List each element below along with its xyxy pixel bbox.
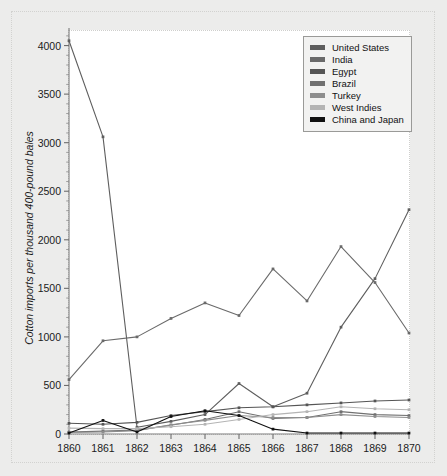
series-line — [69, 247, 409, 380]
data-point-marker — [170, 415, 173, 418]
data-point-marker — [68, 378, 71, 381]
data-point-marker — [204, 423, 207, 426]
data-point-marker — [340, 410, 343, 413]
data-point-marker — [238, 382, 241, 385]
legend-swatch-icon — [310, 117, 325, 122]
data-point-marker — [374, 432, 377, 435]
data-point-marker — [238, 418, 241, 421]
legend-label: United States — [332, 42, 389, 53]
legend-item-china-and-japan[interactable]: China and Japan — [310, 114, 404, 126]
legend-label: Brazil — [332, 78, 356, 89]
y-tick-label: 1500 — [15, 282, 61, 294]
legend-swatch-icon — [310, 93, 325, 98]
data-point-marker — [204, 409, 207, 412]
y-tick-label: 0 — [15, 428, 61, 440]
data-point-marker — [68, 422, 71, 425]
legend-label: Egypt — [332, 66, 356, 77]
data-point-marker — [136, 431, 139, 434]
data-point-marker — [272, 428, 275, 431]
data-point-marker — [272, 413, 275, 416]
y-tick-label: 2500 — [15, 185, 61, 197]
data-point-marker — [340, 326, 343, 329]
data-point-marker — [306, 432, 309, 435]
data-point-marker — [238, 406, 241, 409]
data-point-marker — [102, 427, 105, 430]
data-point-marker — [238, 414, 241, 417]
y-tick-label: 500 — [15, 379, 61, 391]
series-brazil — [68, 410, 411, 433]
data-point-marker — [408, 408, 411, 411]
legend-swatch-icon — [310, 57, 325, 62]
data-point-marker — [374, 407, 377, 410]
data-point-marker — [170, 420, 173, 423]
legend-swatch-icon — [310, 105, 325, 110]
legend-item-brazil[interactable]: Brazil — [310, 78, 404, 90]
data-point-marker — [374, 281, 377, 284]
legend-label: China and Japan — [332, 114, 404, 125]
data-point-marker — [102, 136, 105, 139]
data-point-marker — [272, 268, 275, 271]
data-point-marker — [272, 405, 275, 408]
data-point-marker — [102, 423, 105, 426]
y-tick-label: 2000 — [15, 234, 61, 246]
legend-item-west-indies[interactable]: West Indies — [310, 102, 404, 114]
data-point-marker — [306, 300, 309, 303]
data-point-marker — [408, 416, 411, 419]
data-point-marker — [136, 427, 139, 430]
data-point-marker — [306, 416, 309, 419]
data-point-marker — [136, 336, 139, 339]
data-point-marker — [238, 410, 241, 413]
data-point-marker — [340, 432, 343, 435]
data-point-marker — [68, 427, 71, 430]
data-point-marker — [340, 405, 343, 408]
data-point-marker — [204, 413, 207, 416]
data-point-marker — [340, 413, 343, 416]
y-tick-label: 4000 — [15, 40, 61, 52]
data-point-marker — [272, 416, 275, 419]
data-point-marker — [68, 39, 71, 42]
data-point-marker — [102, 419, 105, 422]
y-axis-label: Cotton imports per thousand 400-pound ba… — [23, 123, 35, 353]
data-point-marker — [306, 404, 309, 407]
data-point-marker — [68, 432, 71, 435]
data-point-marker — [204, 419, 207, 422]
legend-label: Turkey — [332, 90, 361, 101]
data-point-marker — [408, 399, 411, 402]
data-point-marker — [170, 317, 173, 320]
data-point-marker — [136, 421, 139, 424]
legend-swatch-icon — [310, 69, 325, 74]
data-point-marker — [374, 415, 377, 418]
legend-item-india[interactable]: India — [310, 54, 404, 66]
x-tick-label: 1870 — [387, 442, 431, 454]
series-india — [68, 245, 411, 381]
data-point-marker — [170, 425, 173, 428]
legend-label: India — [332, 54, 353, 65]
data-point-marker — [238, 314, 241, 317]
data-point-marker — [374, 400, 377, 403]
data-point-marker — [374, 277, 377, 280]
data-point-marker — [408, 332, 411, 335]
chart-figure: 0500100015002000250030003500400018601861… — [0, 0, 447, 476]
legend-item-egypt[interactable]: Egypt — [310, 66, 404, 78]
data-point-marker — [408, 208, 411, 211]
series-line — [69, 411, 409, 433]
y-tick-label: 3500 — [15, 88, 61, 100]
data-point-marker — [102, 431, 105, 434]
legend-item-turkey[interactable]: Turkey — [310, 90, 404, 102]
legend-label: West Indies — [332, 102, 381, 113]
data-point-marker — [306, 392, 309, 395]
legend-swatch-icon — [310, 81, 325, 86]
legend-item-united-states[interactable]: United States — [310, 42, 404, 54]
data-point-marker — [102, 339, 105, 342]
data-point-marker — [306, 410, 309, 413]
data-point-marker — [340, 245, 343, 248]
y-tick-label: 1000 — [15, 331, 61, 343]
data-point-marker — [340, 402, 343, 405]
series-line — [69, 407, 409, 429]
legend-swatch-icon — [310, 45, 325, 50]
chart-legend: United StatesIndiaEgyptBrazilTurkeyWest … — [303, 36, 412, 132]
y-tick-label: 3000 — [15, 137, 61, 149]
data-point-marker — [204, 302, 207, 305]
data-point-marker — [408, 432, 411, 435]
